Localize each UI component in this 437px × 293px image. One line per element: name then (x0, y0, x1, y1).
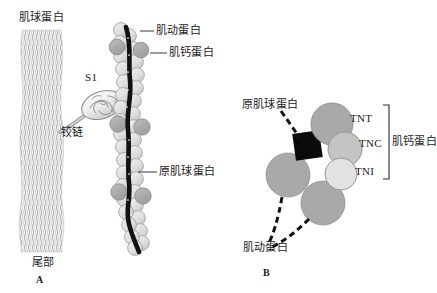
leader-actin-b-left (268, 197, 282, 245)
label-tail: 尾部 (32, 257, 54, 268)
label-s1: S1 (85, 72, 97, 83)
label-tropomyosin-panel-a: 原肌球蛋白 (159, 166, 215, 177)
label-actin-panel-a: 肌动蛋白 (156, 25, 201, 36)
muscle-protein-diagram: 肌球蛋白 S1 铰链 肌动蛋白 肌钙蛋白 原肌球蛋白 尾部 A 原肌球蛋白 TN… (0, 0, 437, 293)
panel-label-a: A (36, 275, 43, 285)
troponin-bracket (383, 105, 389, 179)
troponin-complex-panel-b (266, 103, 362, 225)
label-tni: TNI (355, 166, 374, 177)
tni-circle (325, 158, 357, 190)
label-troponin-panel-a: 肌钙蛋白 (169, 47, 214, 58)
label-myosin: 肌球蛋白 (19, 12, 64, 23)
panel-label-b: B (263, 268, 270, 278)
label-hinge: 铰链 (61, 127, 83, 138)
myosin-tail-shape (19, 30, 64, 252)
label-tropomyosin-panel-b: 原肌球蛋白 (242, 99, 298, 110)
label-tnc: TNC (359, 138, 382, 149)
label-troponin-bracket-panel-b: 肌钙蛋白 (392, 136, 437, 147)
label-actin-panel-b: 肌动蛋白 (243, 242, 288, 253)
label-tnt: TNT (350, 113, 372, 124)
